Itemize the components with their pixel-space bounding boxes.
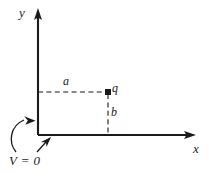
y-axis-label: y (19, 6, 25, 19)
diagram-svg (0, 0, 213, 173)
dimension-label-b: b (111, 106, 117, 118)
pointer-to-y-axis-curve (11, 120, 24, 152)
y-axis (34, 8, 42, 135)
x-axis (38, 131, 196, 139)
pointer-to-y-axis-arrowhead (23, 114, 36, 125)
boundary-condition-label: V = 0 (9, 154, 40, 167)
figure-canvas: y x a b q V = 0 (0, 0, 213, 173)
pointer-to-y-axis (11, 114, 36, 152)
pointer-to-x-axis (37, 137, 51, 152)
charge-dot-icon (105, 89, 111, 95)
dimension-label-a: a (63, 75, 69, 87)
pointer-to-x-axis-line (37, 142, 46, 152)
x-axis-label: x (193, 142, 199, 155)
charge-label-q: q (112, 82, 118, 94)
